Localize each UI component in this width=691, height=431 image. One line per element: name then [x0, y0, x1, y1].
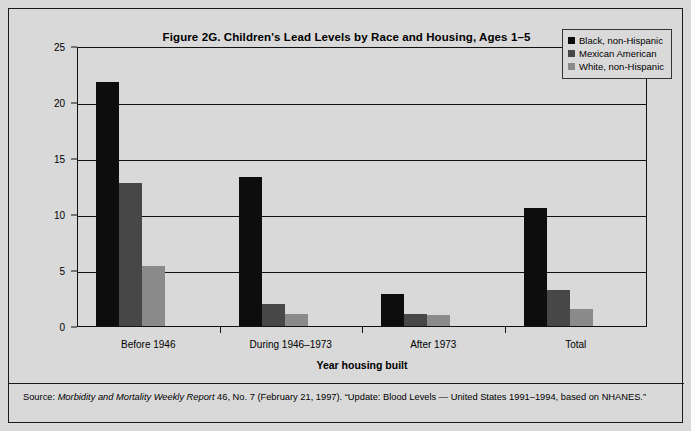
legend-item: Black, non-Hispanic — [568, 34, 664, 47]
bar — [404, 314, 427, 326]
figure-container: Figure 2G. Children's Lead Levels by Rac… — [0, 0, 691, 431]
bar-group — [96, 48, 165, 326]
y-axis-tick-label: 20 — [25, 98, 65, 109]
legend-item: White, non-Hispanic — [568, 60, 664, 73]
bar — [524, 208, 547, 326]
y-axis-tick-label: 5 — [25, 266, 65, 277]
x-axis-tick — [362, 327, 363, 333]
bar — [570, 309, 593, 326]
source-publication: Morbidity and Mortality Weekly Report — [58, 392, 215, 402]
x-axis-tick — [220, 327, 221, 333]
y-axis-tick-label: 25 — [25, 42, 65, 53]
legend-item: Mexican American — [568, 47, 664, 60]
x-axis-tick-label: Before 1946 — [73, 339, 223, 350]
bar — [381, 294, 404, 326]
source-prefix: Source: — [23, 392, 58, 402]
y-axis-tick-label: 0 — [25, 322, 65, 333]
bar — [142, 266, 165, 326]
x-axis-tick-label: Total — [501, 339, 651, 350]
source-divider — [9, 383, 684, 384]
x-axis-tick-label: During 1946–1973 — [216, 339, 366, 350]
bar-group — [239, 48, 308, 326]
y-axis-tick-label: 15 — [25, 154, 65, 165]
chart-legend: Black, non-HispanicMexican AmericanWhite… — [562, 29, 672, 79]
legend-item-label: Black, non-Hispanic — [579, 34, 663, 47]
y-axis-tick — [71, 47, 77, 48]
source-rest: 46, No. 7 (February 21, 1997). “Update: … — [215, 392, 647, 402]
bar-group — [524, 48, 593, 326]
bar — [262, 304, 285, 326]
y-axis-tick — [71, 327, 77, 328]
bar — [547, 290, 570, 326]
bar-group — [381, 48, 450, 326]
figure-frame: Figure 2G. Children's Lead Levels by Rac… — [8, 8, 683, 423]
bar — [285, 314, 308, 326]
legend-swatch-icon — [568, 63, 575, 70]
plot-area — [77, 47, 647, 327]
y-axis-tick — [71, 103, 77, 104]
x-axis-title: Year housing built — [77, 359, 647, 371]
y-axis-tick — [71, 159, 77, 160]
y-axis-tick — [71, 215, 77, 216]
bar — [96, 82, 119, 326]
source-note: Source: Morbidity and Mortality Weekly R… — [23, 391, 673, 403]
y-axis-tick — [71, 271, 77, 272]
bar — [119, 183, 142, 326]
legend-swatch-icon — [568, 50, 575, 57]
bar — [239, 177, 262, 326]
legend-swatch-icon — [568, 37, 575, 44]
x-axis-tick — [505, 327, 506, 333]
y-axis-tick-label: 10 — [25, 210, 65, 221]
x-axis-tick-label: After 1973 — [358, 339, 508, 350]
legend-item-label: Mexican American — [579, 47, 657, 60]
bar — [427, 315, 450, 326]
legend-item-label: White, non-Hispanic — [579, 60, 664, 73]
